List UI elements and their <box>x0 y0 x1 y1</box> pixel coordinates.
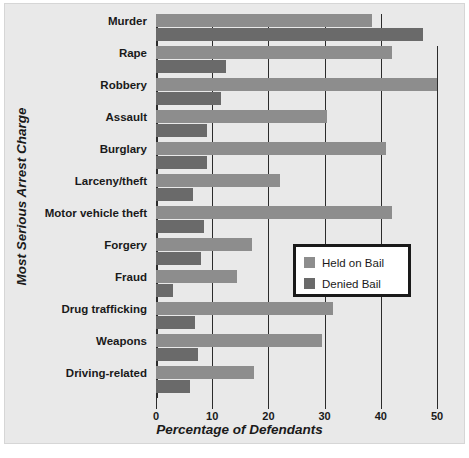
bar-group <box>156 174 438 206</box>
bar-held-on-bail <box>156 110 327 123</box>
category-label: Fraud <box>115 272 147 283</box>
chart-panel: Most Serious Arrest Charge MurderRapeRob… <box>4 3 465 444</box>
bar-denied-bail <box>156 188 193 201</box>
y-axis-category-labels: MurderRapeRobberyAssaultBurglaryLarceny/… <box>5 14 151 398</box>
legend: Held on Bail Denied Bail <box>293 244 411 297</box>
x-axis: 01020304050 <box>156 398 446 424</box>
legend-label-held-on-bail: Held on Bail <box>322 257 384 269</box>
bar-denied-bail <box>156 60 226 73</box>
bar-denied-bail <box>156 284 173 297</box>
plot-area <box>156 14 438 398</box>
bar-denied-bail <box>156 28 423 41</box>
category-label: Murder <box>108 16 147 27</box>
x-tick-label: 50 <box>431 410 443 422</box>
x-tick-10 <box>212 398 213 409</box>
x-tick-40 <box>381 398 382 409</box>
x-tick-label: 30 <box>318 410 330 422</box>
bar-denied-bail <box>156 124 207 137</box>
category-label: Robbery <box>100 80 147 91</box>
x-tick-label: 40 <box>375 410 387 422</box>
legend-label-denied-bail: Denied Bail <box>322 278 381 290</box>
bar-held-on-bail <box>156 270 237 283</box>
bar-group <box>156 46 438 78</box>
bar-group <box>156 14 438 46</box>
x-axis-title: Percentage of Defendants <box>5 422 469 437</box>
bar-held-on-bail <box>156 238 252 251</box>
bar-held-on-bail <box>156 142 386 155</box>
x-tick-0 <box>156 398 157 409</box>
bar-held-on-bail <box>156 174 280 187</box>
category-label: Driving-related <box>66 368 147 379</box>
bar-held-on-bail <box>156 206 392 219</box>
category-label: Assault <box>105 112 147 123</box>
category-label: Forgery <box>104 240 147 251</box>
bar-held-on-bail <box>156 78 437 91</box>
x-tick-20 <box>268 398 269 409</box>
legend-swatch-denied-bail <box>304 278 315 289</box>
bar-denied-bail <box>156 92 221 105</box>
bar-held-on-bail <box>156 302 333 315</box>
legend-swatch-held-on-bail <box>304 257 315 268</box>
figure: Most Serious Arrest Charge MurderRapeRob… <box>0 0 469 458</box>
bar-group <box>156 366 438 398</box>
bar-held-on-bail <box>156 14 372 27</box>
bar-denied-bail <box>156 156 207 169</box>
x-tick-label: 20 <box>262 410 274 422</box>
x-tick-label: 0 <box>153 410 159 422</box>
bar-group <box>156 110 438 142</box>
bar-denied-bail <box>156 220 204 233</box>
bar-held-on-bail <box>156 366 254 379</box>
bar-group <box>156 78 438 110</box>
x-tick-30 <box>325 398 326 409</box>
bar-group <box>156 142 438 174</box>
bar-held-on-bail <box>156 46 392 59</box>
bar-denied-bail <box>156 380 190 393</box>
legend-item-denied-bail: Denied Bail <box>304 273 408 294</box>
bar-group <box>156 334 438 366</box>
category-label: Larceny/theft <box>75 176 147 187</box>
category-label: Burglary <box>100 144 147 155</box>
bar-denied-bail <box>156 252 201 265</box>
x-tick-50 <box>437 398 438 409</box>
legend-item-held-on-bail: Held on Bail <box>304 252 408 273</box>
category-label: Rape <box>119 48 147 59</box>
category-label: Weapons <box>96 336 147 347</box>
category-label: Motor vehicle theft <box>45 208 147 219</box>
bar-denied-bail <box>156 348 198 361</box>
bar-held-on-bail <box>156 334 322 347</box>
bar-group <box>156 302 438 334</box>
category-label: Drug trafficking <box>61 304 147 315</box>
x-tick-label: 10 <box>206 410 218 422</box>
bar-group <box>156 206 438 238</box>
bar-denied-bail <box>156 316 195 329</box>
